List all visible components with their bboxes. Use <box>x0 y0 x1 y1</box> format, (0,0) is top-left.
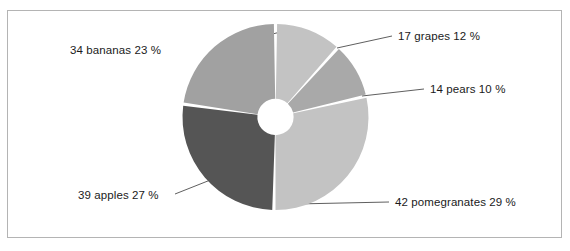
slice-label-grapes: 17 grapes 12 % <box>398 30 480 43</box>
chart-screenshot: 34 bananas 23 % 17 grapes 12 % 14 pears … <box>0 0 570 251</box>
slice-label-bananas: 34 bananas 23 % <box>70 44 161 57</box>
donut-chart-graphic <box>0 0 570 251</box>
slice-label-pomegranates: 42 pomegranates 29 % <box>395 196 516 209</box>
slice-label-apples: 39 apples 27 % <box>78 189 159 202</box>
donut-slice-bananas[interactable] <box>184 24 276 114</box>
donut-slice-pomegranates[interactable] <box>276 98 369 210</box>
leader-line-pears <box>362 89 424 96</box>
donut-slices <box>182 24 368 210</box>
slice-label-pears: 14 pears 10 % <box>430 83 505 96</box>
leader-line-grapes <box>337 36 392 48</box>
donut-slice-apples[interactable] <box>182 106 274 210</box>
